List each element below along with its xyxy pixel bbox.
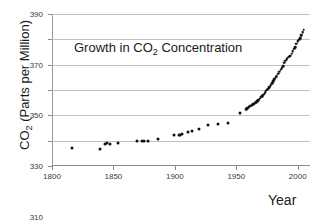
data-point <box>117 141 120 144</box>
x-axis-tick-label: 1900 <box>166 172 184 181</box>
x-axis-tick <box>52 166 53 170</box>
data-point <box>146 139 149 142</box>
x-axis-tick-label: 1800 <box>43 172 61 181</box>
y-axis-tick-label: 390 <box>30 10 43 19</box>
co2-concentration-chart: CO2 (Parts per Million) 2702903103303503… <box>0 0 324 220</box>
x-axis-tick-label: 1950 <box>227 172 245 181</box>
data-point <box>191 129 194 132</box>
data-point <box>290 52 293 55</box>
x-axis-tick <box>236 166 237 170</box>
data-point <box>70 146 73 149</box>
y-axis-title-subscript: 2 <box>24 125 34 130</box>
data-point <box>280 67 283 70</box>
data-point <box>282 65 285 68</box>
data-point <box>292 50 295 53</box>
data-point <box>300 34 303 37</box>
x-axis-title: Year <box>268 192 296 208</box>
y-axis-tick-label: 330 <box>30 162 43 171</box>
data-point <box>143 139 146 142</box>
data-point <box>181 132 184 135</box>
data-point <box>198 128 201 131</box>
y-axis-tick-label: 370 <box>30 60 43 69</box>
data-point <box>226 121 229 124</box>
x-axis-tick-label: 1850 <box>105 172 123 181</box>
y-axis-title: CO2 (Parts per Million) <box>16 0 34 170</box>
x-axis-tick <box>113 166 114 170</box>
data-point <box>156 137 159 140</box>
x-axis-tick <box>298 166 299 170</box>
plot-area: 270290310330350370390 180018501900195020… <box>52 14 310 166</box>
data-point <box>216 123 219 126</box>
data-point <box>299 37 302 40</box>
y-axis-tick-label: 310 <box>30 212 43 220</box>
x-axis-tick-label: 2000 <box>289 172 307 181</box>
data-point <box>303 29 306 32</box>
data-point <box>268 86 271 89</box>
data-point <box>135 140 138 143</box>
data-point <box>98 148 101 151</box>
data-point <box>207 124 210 127</box>
y-axis-title-prefix: CO <box>17 131 32 151</box>
y-axis-tick-label: 350 <box>30 111 43 120</box>
data-point <box>187 130 190 133</box>
data-point <box>108 143 111 146</box>
y-axis-title-suffix: (Parts per Million) <box>17 20 32 125</box>
data-point <box>238 112 241 115</box>
data-point <box>172 133 175 136</box>
x-axis-tick <box>175 166 176 170</box>
data-series-layer <box>52 14 310 166</box>
data-point <box>294 46 297 49</box>
